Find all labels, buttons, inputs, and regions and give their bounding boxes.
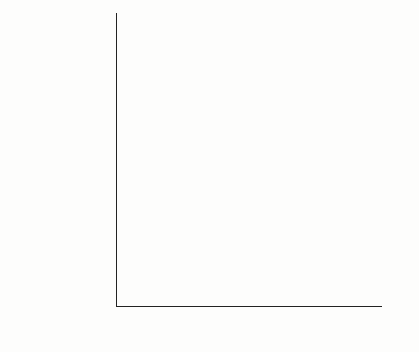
rebleeding-rate-bar-chart <box>0 0 419 352</box>
plot-area <box>117 14 381 306</box>
x-axis-line <box>116 306 382 307</box>
category-axis-labels <box>0 14 113 306</box>
